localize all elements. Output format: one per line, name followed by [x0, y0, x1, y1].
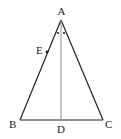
segment-ac: [61, 20, 103, 120]
label-b: B: [9, 118, 16, 130]
angle-mark-dot-right: [63, 32, 65, 34]
label-c: C: [105, 118, 112, 130]
label-a: A: [58, 5, 66, 17]
segment-ab: [20, 20, 61, 120]
label-e: E: [36, 44, 43, 56]
point-e-dot: [46, 51, 49, 54]
angle-mark-dot-left: [57, 32, 59, 34]
diagram-svg: A B C D E: [0, 0, 121, 139]
triangle-diagram: A B C D E: [0, 0, 121, 139]
label-d: D: [57, 123, 65, 135]
